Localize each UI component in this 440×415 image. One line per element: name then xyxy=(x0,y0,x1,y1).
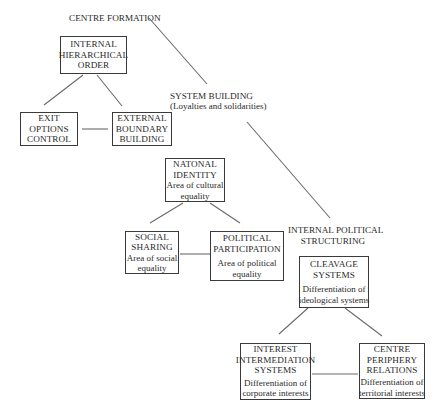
box-title-line: EXIT xyxy=(38,113,59,124)
box-title-line: HIERARCHICAL xyxy=(59,50,129,61)
box-title-line: BOUNDARY xyxy=(116,124,168,135)
box-title-line: INTERMEDIATION xyxy=(236,355,315,366)
box-subtitle-line: Differentiation of xyxy=(302,284,365,295)
box-subtitle-line: Area of cultural xyxy=(167,180,224,191)
box-title-line: RELATIONS xyxy=(367,365,418,376)
system-building-subheading: (Loyalties and solidarities) xyxy=(170,101,266,112)
box-subtitle-line: territorial interests xyxy=(359,388,425,399)
box-subtitle-line: equality xyxy=(233,269,262,280)
centre-periphery-relations-box: CENTRE PERIPHERY RELATIONS Differentiati… xyxy=(359,343,425,399)
political-participation-box: POLITICAL PARTICIPATION Area of politica… xyxy=(210,231,284,281)
external-boundary-building-box: EXTERNAL BOUNDARY BUILDING xyxy=(112,112,172,146)
box-title-line: CLEAVAGE xyxy=(310,259,358,270)
box-title-line: INTERNAL xyxy=(70,39,117,50)
centre-formation-heading: CENTRE FORMATION xyxy=(69,13,161,24)
box-title-line: BUILDING xyxy=(119,134,164,145)
box-title-line: PARTICIPATION xyxy=(213,244,280,255)
box-title-line: CONTROL xyxy=(27,134,71,145)
box-title-line: SOCIAL xyxy=(135,232,169,243)
box-subtitle-line: ideological systems xyxy=(299,295,370,306)
internal-political-line2: STRUCTURING xyxy=(288,236,378,247)
system-building-heading: SYSTEM BUILDING xyxy=(170,91,253,102)
box-title-line: POLITICAL xyxy=(223,233,271,244)
box-title-line: INTEREST xyxy=(253,344,297,355)
box-title-line: EXTERNAL xyxy=(117,113,166,124)
internal-hierarchical-order-box: INTERNAL HIERARCHICAL ORDER xyxy=(60,36,127,74)
box-title-line: ORDER xyxy=(78,60,110,71)
internal-political-line1: INTERNAL POLITICAL xyxy=(288,225,378,236)
box-subtitle-line: Differentiation of xyxy=(244,378,307,389)
box-title-line: SYSTEMS xyxy=(254,365,296,376)
box-subtitle-line: Differentiation of xyxy=(360,377,423,388)
national-identity-box: NATONAL IDENTITY Area of cultural equali… xyxy=(165,158,225,202)
box-subtitle-line: corporate interests xyxy=(242,388,308,399)
box-title-line: SHARING xyxy=(131,242,173,253)
exit-options-control-box: EXIT OPTIONS CONTROL xyxy=(20,112,78,146)
box-title-line: CENTRE xyxy=(374,344,410,355)
box-title-line: SYSTEMS xyxy=(313,270,355,281)
internal-political-heading: INTERNAL POLITICAL STRUCTURING xyxy=(288,225,378,246)
box-subtitle-line: equality xyxy=(138,263,167,274)
box-subtitle-line: Area of political xyxy=(218,258,277,269)
box-title-line: PERIPHERY xyxy=(367,355,417,366)
box-title-line: NATONAL xyxy=(173,159,217,170)
social-sharing-box: SOCIAL SHARING Area of social equality xyxy=(125,231,179,274)
box-subtitle-line: equality xyxy=(181,191,210,202)
cleavage-systems-box: CLEAVAGE SYSTEMS Differentiation of ideo… xyxy=(299,256,369,308)
box-title-line: OPTIONS xyxy=(29,124,69,135)
box-subtitle-line: Area of social xyxy=(127,253,177,264)
interest-intermediation-systems-box: INTEREST INTERMEDIATION SYSTEMS Differen… xyxy=(240,343,311,400)
box-title-line: IDENTITY xyxy=(173,170,217,181)
